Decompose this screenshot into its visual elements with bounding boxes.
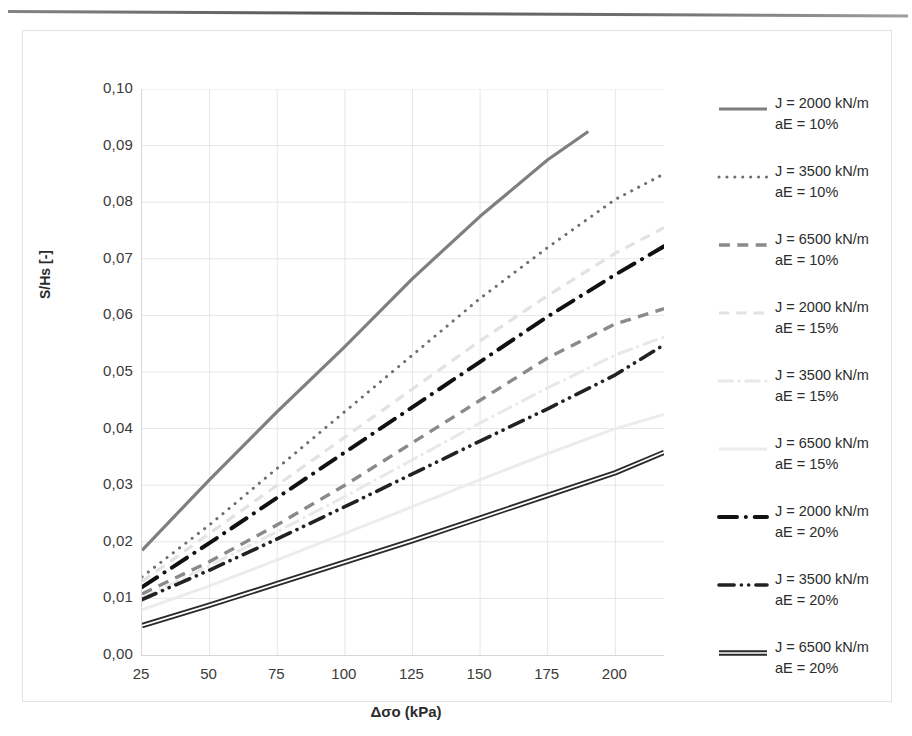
legend-label-line1: J = 3500 kN/m: [775, 161, 907, 182]
legend-line-sample: [717, 512, 769, 522]
legend-item[interactable]: J = 6500 kN/maE = 15%: [717, 433, 907, 479]
x-tick-label: 175: [519, 665, 575, 682]
y-tick-label: 0,07: [75, 249, 133, 266]
y-tick-label: 0,08: [75, 192, 133, 209]
legend-label: J = 2000 kN/maE = 15%: [775, 297, 907, 339]
legend-label-line2: aE = 15%: [775, 318, 907, 339]
legend-label-line2: aE = 20%: [775, 658, 907, 679]
legend-label: J = 6500 kN/maE = 15%: [775, 433, 907, 475]
chart-lines-svg: [142, 89, 664, 655]
y-tick-label: 0,06: [75, 305, 133, 322]
legend-item[interactable]: J = 3500 kN/maE = 20%: [717, 569, 907, 615]
y-tick-label: 0,01: [75, 588, 133, 605]
plot-area: [141, 89, 664, 656]
legend-line-sample: [717, 172, 769, 182]
y-tick-label: 0,05: [75, 362, 133, 379]
legend-label-line1: J = 2000 kN/m: [775, 297, 907, 318]
legend-item[interactable]: J = 2000 kN/maE = 15%: [717, 297, 907, 343]
legend-label-line2: aE = 20%: [775, 522, 907, 543]
x-axis-title: Δσo (kPa): [261, 703, 551, 720]
legend-label-line2: aE = 10%: [775, 182, 907, 203]
legend-line-sample: [717, 580, 769, 590]
y-tick-label: 0,02: [75, 532, 133, 549]
legend-label: J = 3500 kN/maE = 15%: [775, 365, 907, 407]
y-tick-label: 0,09: [75, 136, 133, 153]
legend-label-line1: J = 6500 kN/m: [775, 637, 907, 658]
legend-label-line1: J = 6500 kN/m: [775, 433, 907, 454]
legend-line-sample: [717, 308, 769, 318]
y-tick-label: 0,03: [75, 475, 133, 492]
y-tick-label: 0,00: [75, 645, 133, 662]
legend-item[interactable]: J = 6500 kN/maE = 20%: [717, 637, 907, 683]
legend-label-line1: J = 6500 kN/m: [775, 229, 907, 250]
legend-line-sample: [717, 376, 769, 386]
legend-label-line2: aE = 15%: [775, 454, 907, 475]
legend-label-line2: aE = 10%: [775, 250, 907, 271]
legend-label-line1: J = 3500 kN/m: [775, 569, 907, 590]
legend-label-line1: J = 2000 kN/m: [775, 501, 907, 522]
legend-line-sample: [717, 240, 769, 250]
legend-label: J = 2000 kN/maE = 20%: [775, 501, 907, 543]
legend-label: J = 3500 kN/maE = 20%: [775, 569, 907, 611]
y-tick-label: 0,04: [75, 419, 133, 436]
legend-label: J = 6500 kN/maE = 10%: [775, 229, 907, 271]
x-tick-label: 200: [586, 665, 642, 682]
legend-item[interactable]: J = 2000 kN/maE = 10%: [717, 93, 907, 139]
x-tick-label: 75: [248, 665, 304, 682]
legend-label: J = 3500 kN/maE = 10%: [775, 161, 907, 203]
legend-item[interactable]: J = 6500 kN/maE = 10%: [717, 229, 907, 275]
legend-line-sample: [717, 104, 769, 114]
legend-label-line1: J = 3500 kN/m: [775, 365, 907, 386]
chart-container: S/Hs [-] Δσo (kPa) 0,100,090,080,070,060…: [22, 30, 892, 702]
legend-line-sample: [717, 648, 769, 658]
legend-item[interactable]: J = 3500 kN/maE = 10%: [717, 161, 907, 207]
y-axis-title: S/Hs [-]: [37, 250, 53, 299]
x-tick-label: 150: [451, 665, 507, 682]
legend-label-line2: aE = 15%: [775, 386, 907, 407]
legend-label-line2: aE = 20%: [775, 590, 907, 611]
legend-label-line1: J = 2000 kN/m: [775, 93, 907, 114]
scan-artifact-rule: [8, 10, 908, 17]
legend-label: J = 2000 kN/maE = 10%: [775, 93, 907, 135]
legend-label: J = 6500 kN/maE = 20%: [775, 637, 907, 679]
legend-item[interactable]: J = 3500 kN/maE = 15%: [717, 365, 907, 411]
legend-label-line2: aE = 10%: [775, 114, 907, 135]
x-tick-label: 25: [113, 665, 169, 682]
x-tick-label: 100: [316, 665, 372, 682]
x-tick-label: 125: [383, 665, 439, 682]
legend-item[interactable]: J = 2000 kN/maE = 20%: [717, 501, 907, 547]
legend-line-sample: [717, 444, 769, 454]
x-tick-label: 50: [181, 665, 237, 682]
y-tick-label: 0,10: [75, 79, 133, 96]
